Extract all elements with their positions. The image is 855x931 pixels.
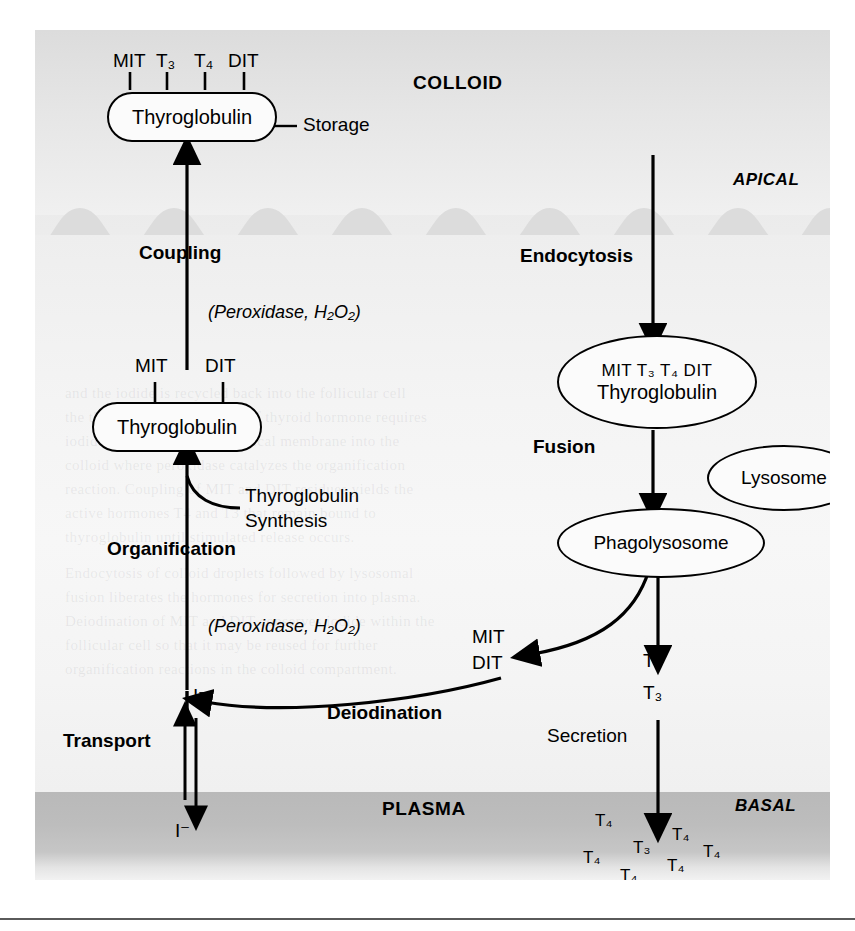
iodide-plasma-label: I⁻ — [175, 820, 190, 841]
phagolysosome-label: Phagolysosome — [593, 532, 728, 554]
vesicle-residues-label: MIT T₃ T₄ DIT — [601, 361, 712, 381]
plasma-hormone-3: T₄ — [583, 848, 600, 868]
phagolysosome-oval: Phagolysosome — [557, 508, 765, 578]
thyroid-hormone-synthesis-figure: and the iodide is recycled back into the… — [35, 30, 830, 880]
released-t4-label: T₄ — [643, 650, 662, 671]
plasma-hormone-1: T₄ — [672, 825, 689, 845]
figure-page: and the iodide is recycled back into the… — [0, 0, 855, 931]
storage-label: Storage — [303, 114, 370, 135]
plasma-hormone-5: T₄ — [620, 866, 637, 880]
colloid-thyroglobulin-label: Thyroglobulin — [132, 106, 252, 129]
colloid-label: COLLOID — [413, 72, 503, 93]
transport-label: Transport — [63, 730, 151, 751]
colloid-tg-ticks — [130, 72, 244, 90]
colloid-thyroglobulin-capsule: Thyroglobulin — [107, 92, 277, 142]
deiodination-arrow — [533, 570, 649, 654]
coupling-enzyme-label: (Peroxidase, H₂O₂) — [208, 302, 361, 322]
deiodination-label: Deiodination — [327, 702, 442, 723]
recycled-dit-label: DIT — [472, 652, 503, 673]
tg-tick-label-dit: DIT — [205, 355, 236, 376]
colloid-tick-label-t3: T₃ — [156, 50, 175, 71]
organification-label: Organification — [107, 538, 236, 559]
basal-label: BASAL — [735, 796, 796, 815]
released-t3-label: T₃ — [643, 682, 662, 703]
plasma-hormone-6: T₄ — [703, 842, 720, 862]
lysosome-label: Lysosome — [741, 467, 827, 489]
plasma-label: PLASMA — [382, 798, 466, 819]
intracellular-thyroglobulin-label: Thyroglobulin — [117, 416, 237, 439]
diagram-arrows — [35, 30, 830, 880]
thyroglobulin-synthesis-curve — [187, 476, 240, 508]
secretion-label: Secretion — [547, 725, 627, 746]
iodide-apical-label: I⁻ — [193, 685, 208, 706]
page-bottom-rule — [0, 918, 855, 920]
intracellular-tg-ticks — [155, 382, 223, 402]
colloid-tick-label-dit: DIT — [228, 50, 259, 71]
thyroglobulin-synthesis-line2: Synthesis — [245, 510, 327, 531]
intracellular-thyroglobulin-capsule: Thyroglobulin — [92, 402, 262, 452]
endocytosis-label: Endocytosis — [520, 245, 633, 266]
coupling-label: Coupling — [139, 242, 221, 263]
endocytic-vesicle: MIT T₃ T₄ DIT Thyroglobulin — [557, 335, 757, 429]
recycled-mit-label: MIT — [472, 626, 505, 647]
colloid-tick-label-mit: MIT — [113, 50, 146, 71]
apical-label: APICAL — [733, 170, 799, 189]
tg-tick-label-mit: MIT — [135, 355, 168, 376]
vesicle-thyroglobulin-label: Thyroglobulin — [597, 381, 717, 404]
plasma-hormone-0: T₄ — [595, 811, 612, 831]
colloid-tick-label-t4: T₄ — [194, 50, 213, 71]
plasma-hormone-4: T₄ — [667, 856, 684, 876]
thyroglobulin-synthesis-line1: Thyroglobulin — [245, 485, 359, 506]
plasma-hormone-2: T₃ — [633, 838, 650, 858]
organification-enzyme-label: (Peroxidase, H₂O₂) — [208, 616, 361, 636]
fusion-label: Fusion — [533, 436, 595, 457]
